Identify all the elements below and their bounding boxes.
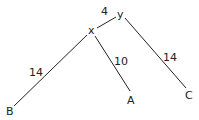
tree-diagram: y x B A C 4 14 10 14 — [0, 0, 199, 120]
node-x-label: x — [88, 24, 95, 37]
node-C-label: C — [185, 89, 193, 102]
edge-y-x — [97, 17, 116, 28]
edge-weight-x-A: 10 — [114, 55, 128, 68]
node-B-label: B — [6, 105, 14, 118]
node-y-label: y — [117, 8, 124, 21]
edge-weight-y-x: 4 — [101, 5, 108, 18]
edge-x-B — [14, 35, 87, 106]
edge-weight-y-C: 14 — [163, 51, 177, 64]
node-A-label: A — [127, 94, 135, 107]
edge-weight-x-B: 14 — [29, 66, 43, 79]
